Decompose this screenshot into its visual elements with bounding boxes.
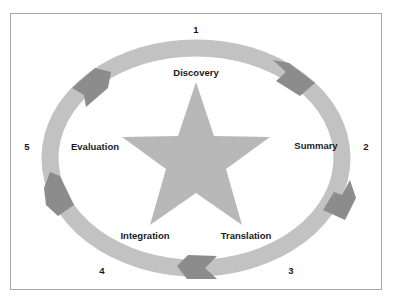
stage-number-2: 2 [363,141,368,152]
stage-label-discovery: Discovery [173,67,218,78]
stage-label-summary: Summary [294,140,337,151]
center-star-icon [122,82,270,225]
stage-number-3: 3 [288,265,293,276]
cycle-diagram [0,0,394,301]
stage-label-integration: Integration [120,230,169,241]
stage-number-1: 1 [193,24,198,35]
stage-label-evaluation: Evaluation [71,141,119,152]
stage-number-4: 4 [99,265,104,276]
stage-number-5: 5 [24,141,29,152]
stage-label-translation: Translation [221,230,272,241]
